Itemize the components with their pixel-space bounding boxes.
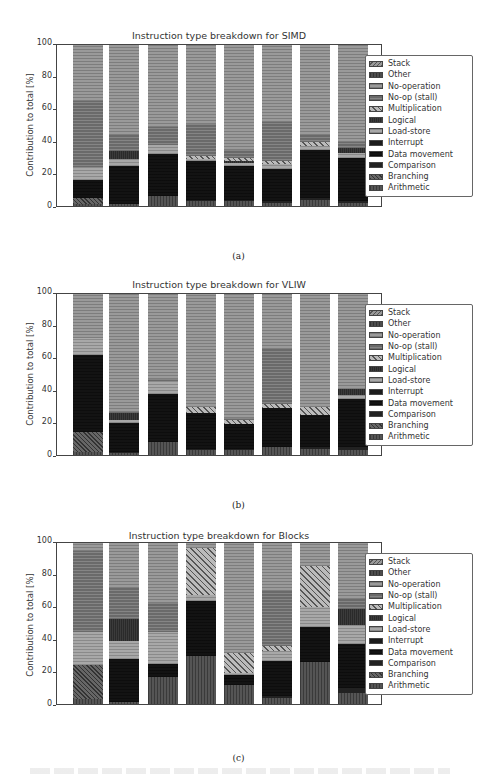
segment-datamov bbox=[224, 675, 254, 685]
bar-iir bbox=[224, 45, 254, 206]
datamov-swatch-icon bbox=[369, 649, 383, 655]
bar-fir bbox=[186, 294, 216, 455]
legend-item-logical: Logical bbox=[369, 114, 469, 125]
segment-stall bbox=[262, 591, 292, 646]
segment-datamov bbox=[148, 154, 178, 196]
segment-noop bbox=[300, 294, 330, 407]
legend-label: Comparison bbox=[388, 410, 436, 419]
segment-noop bbox=[262, 45, 292, 122]
noop-swatch-icon bbox=[369, 332, 383, 338]
bar-binarization bbox=[73, 45, 103, 206]
legend-item-branch: Branching bbox=[369, 669, 469, 680]
loadstore-swatch-icon bbox=[369, 626, 383, 632]
arith-swatch-icon bbox=[369, 434, 383, 440]
legend-label: Arithmetic bbox=[388, 432, 430, 441]
segment-arith bbox=[73, 452, 103, 455]
y-tick-label: 100 bbox=[30, 38, 52, 47]
segment-arith bbox=[148, 442, 178, 455]
segment-datamov bbox=[300, 150, 330, 198]
noop-swatch-icon bbox=[369, 83, 383, 89]
legend-label: Load-store bbox=[388, 625, 430, 634]
y-tick-mark bbox=[53, 207, 56, 208]
segment-datamov bbox=[73, 355, 103, 432]
legend-item-interrupt: Interrupt bbox=[369, 137, 469, 148]
segment-mult bbox=[224, 653, 254, 674]
segment-arith bbox=[224, 201, 254, 206]
bar-fir bbox=[186, 543, 216, 704]
segment-loadstore bbox=[73, 632, 103, 666]
legend-item-noop: No-operation bbox=[369, 330, 469, 341]
legend-label: Load-store bbox=[388, 376, 430, 385]
y-tick-label: 20 bbox=[30, 666, 52, 675]
segment-arith bbox=[148, 677, 178, 704]
segment-noop bbox=[109, 45, 139, 135]
chart-title: Instruction type breakdown for SIMD bbox=[56, 30, 382, 41]
legend-label: No-operation bbox=[388, 580, 440, 589]
logical-swatch-icon bbox=[369, 366, 383, 372]
segment-stall bbox=[148, 127, 178, 145]
legend-item-loadstore: Load-store bbox=[369, 375, 469, 386]
legend-item-datamov: Data movement bbox=[369, 148, 469, 159]
legend-item-stack: Stack bbox=[369, 307, 469, 318]
segment-stall bbox=[224, 150, 254, 158]
segment-arith bbox=[224, 685, 254, 704]
legend-label: Logical bbox=[388, 365, 416, 374]
y-tick-label: 40 bbox=[30, 634, 52, 643]
segment-loadstore bbox=[148, 381, 178, 394]
segment-loadstore bbox=[148, 145, 178, 155]
bar-projection bbox=[148, 45, 178, 206]
segment-arith bbox=[186, 201, 216, 206]
segment-datamov bbox=[109, 423, 139, 452]
segment-stall bbox=[262, 122, 292, 161]
segment-noop bbox=[109, 543, 139, 588]
segment-noop bbox=[300, 543, 330, 566]
noop-swatch-icon bbox=[369, 581, 383, 587]
legend-label: Load-store bbox=[388, 127, 430, 136]
segment-logical bbox=[338, 609, 368, 625]
legend-label: No-op (stall) bbox=[388, 342, 437, 351]
legend-label: Data movement bbox=[388, 648, 453, 657]
plot-area bbox=[56, 293, 382, 456]
chart-title: Instruction type breakdown for VLIW bbox=[56, 279, 382, 290]
segment-arith bbox=[109, 204, 139, 206]
y-tick-label: 0 bbox=[30, 450, 52, 459]
other-swatch-icon bbox=[369, 72, 383, 78]
y-tick-mark bbox=[53, 456, 56, 457]
segment-arith bbox=[109, 702, 139, 704]
segment-datamov bbox=[109, 659, 139, 702]
bar-fft bbox=[262, 543, 292, 704]
segment-arith bbox=[224, 450, 254, 455]
legend-item-arith: Arithmetic bbox=[369, 680, 469, 691]
y-tick-label: 0 bbox=[30, 201, 52, 210]
segment-datamov bbox=[300, 627, 330, 662]
segment-noop bbox=[73, 294, 103, 337]
legend-item-noop: No-operation bbox=[369, 81, 469, 92]
legend-item-mult: Multiplication bbox=[369, 352, 469, 363]
comp-swatch-icon bbox=[369, 660, 383, 666]
datamov-swatch-icon bbox=[369, 151, 383, 157]
bar-binarization bbox=[73, 543, 103, 704]
bar-erosion bbox=[109, 543, 139, 704]
segment-arith bbox=[300, 200, 330, 206]
bar-2d-convolution bbox=[300, 294, 330, 455]
legend-item-arith: Arithmetic bbox=[369, 431, 469, 442]
legend-label: Comparison bbox=[388, 161, 436, 170]
stall-swatch-icon bbox=[369, 593, 383, 599]
bar-2d-convolution bbox=[300, 45, 330, 206]
y-tick-label: 80 bbox=[30, 320, 52, 329]
segment-stall bbox=[109, 135, 139, 151]
segment-noop bbox=[338, 294, 368, 389]
branch-swatch-icon bbox=[369, 174, 383, 180]
legend-label: No-op (stall) bbox=[388, 591, 437, 600]
segment-arith bbox=[338, 693, 368, 704]
stall-swatch-icon bbox=[369, 344, 383, 350]
legend-label: Data movement bbox=[388, 399, 453, 408]
legend-label: Logical bbox=[388, 614, 416, 623]
segment-datamov bbox=[148, 664, 178, 677]
segment-loadstore bbox=[148, 632, 178, 664]
bar-projection bbox=[148, 294, 178, 455]
segment-noop bbox=[262, 294, 292, 349]
legend-item-logical: Logical bbox=[369, 612, 469, 623]
segment-loadstore bbox=[109, 641, 139, 659]
y-tick-label: 40 bbox=[30, 136, 52, 145]
